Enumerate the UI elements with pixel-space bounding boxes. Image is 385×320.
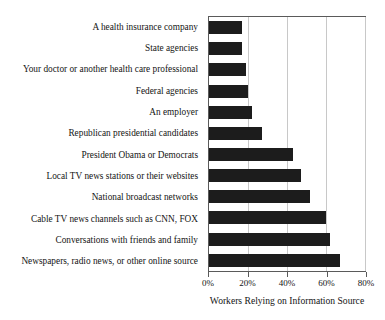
- category-label: Republican presidential candidates: [0, 128, 203, 138]
- bar: [209, 254, 340, 267]
- tick-label: 60%: [318, 277, 335, 289]
- tick-label: 0%: [202, 277, 214, 289]
- bar-row: [209, 190, 365, 203]
- bar: [209, 85, 248, 98]
- bar-row: [209, 106, 365, 119]
- category-label: Cable TV news channels such as CNN, FOX: [0, 214, 203, 224]
- bar-row: [209, 21, 365, 34]
- horizontal-bar-chart: A health insurance companyState agencies…: [0, 0, 385, 320]
- tick-label: 20%: [239, 277, 256, 289]
- bar-row: [209, 127, 365, 140]
- bar: [209, 42, 242, 55]
- x-axis-title: Workers Relying on Information Source: [208, 294, 366, 308]
- category-label: State agencies: [0, 43, 203, 53]
- category-label: Newspapers, radio news, or other online …: [0, 256, 203, 266]
- category-label: Conversations with friends and family: [0, 235, 203, 245]
- category-label: Local TV news stations or their websites: [0, 171, 203, 181]
- gridline: [365, 17, 366, 271]
- bar-row: [209, 85, 365, 98]
- bars-layer: [209, 17, 365, 271]
- bar: [209, 127, 262, 140]
- bar: [209, 211, 326, 224]
- bar-row: [209, 254, 365, 267]
- category-axis-labels: A health insurance companyState agencies…: [0, 16, 203, 272]
- category-label: A health insurance company: [0, 22, 203, 32]
- bar: [209, 21, 242, 34]
- category-label: An employer: [0, 107, 203, 117]
- bar-row: [209, 63, 365, 76]
- category-label: National broadcast networks: [0, 192, 203, 202]
- bar-row: [209, 148, 365, 161]
- category-label: President Obama or Democrats: [0, 150, 203, 160]
- tick-label: 80%: [358, 277, 375, 289]
- bar-row: [209, 211, 365, 224]
- bar-row: [209, 42, 365, 55]
- tick-label: 40%: [279, 277, 296, 289]
- category-label: Your doctor or another health care profe…: [0, 64, 203, 74]
- x-axis-tick-labels: 0%20%40%60%80%: [208, 277, 366, 291]
- bar: [209, 233, 330, 246]
- bar: [209, 169, 301, 182]
- bar: [209, 148, 293, 161]
- bar-row: [209, 169, 365, 182]
- category-label: Federal agencies: [0, 86, 203, 96]
- plot-area: [208, 16, 366, 272]
- bar: [209, 63, 246, 76]
- bar-row: [209, 233, 365, 246]
- bar: [209, 190, 310, 203]
- bar: [209, 106, 252, 119]
